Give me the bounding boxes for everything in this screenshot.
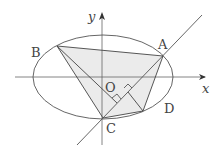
label-c: C: [106, 121, 116, 136]
label-b: B: [31, 45, 41, 60]
x-axis-label: x: [202, 81, 210, 96]
ellipse-diagram: B A C D O y x: [0, 0, 220, 150]
y-axis-label: y: [87, 9, 96, 24]
label-a: A: [157, 37, 168, 52]
diagram: B A C D O y x: [0, 0, 220, 150]
label-o: O: [105, 80, 116, 95]
label-d: D: [164, 101, 174, 116]
